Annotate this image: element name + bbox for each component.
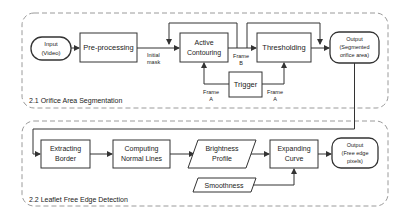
input-video-line1: Input <box>44 41 58 47</box>
output-segmented-line3: orifice area) <box>340 52 369 58</box>
output-free-edge-line1: Output <box>347 142 364 148</box>
computing-normal-lines-line1: Computing <box>125 145 159 153</box>
input-video-line2: (Video) <box>41 50 60 56</box>
frame-a-left-line2: A <box>209 96 213 102</box>
brightness-profile-line1: Brightness <box>205 145 239 153</box>
active-contouring-line2: Contouring <box>187 49 221 57</box>
frame-a-right-line1: Frame <box>267 89 283 95</box>
frame-a-left-line1: Frame <box>203 89 219 95</box>
output-free-edge-line3: pixels) <box>347 158 363 164</box>
output-segmented-line2: (Segmented <box>340 44 370 50</box>
smoothness-label: Smoothness <box>205 182 244 189</box>
extracting-border-line2: Border <box>55 155 77 162</box>
computing-normal-lines-line2: Normal Lines <box>121 155 163 162</box>
active-contouring-node <box>180 33 228 62</box>
frame-a-right-line2: A <box>273 96 277 102</box>
frame-b-line1: Frame <box>233 53 249 59</box>
trigger-label: Trigger <box>234 80 258 89</box>
active-contouring-line1: Active <box>194 39 213 46</box>
initial-mask-line1: Initial <box>147 52 160 58</box>
output-segmented-line1: Output <box>346 36 363 42</box>
output-free-edge-line2: (Free edge <box>342 150 369 156</box>
section-leaflet-label: 2.2 Leaflet Free Edge Detection <box>29 196 128 204</box>
frame-b-line2: B <box>239 60 243 66</box>
flow-diagram: 2.1 Orifice Area Segmentation 2.2 Leafle… <box>0 0 410 218</box>
initial-mask-line2: mask <box>147 59 160 65</box>
preprocessing-label: Pre-processing <box>83 43 133 52</box>
extracting-border-line1: Extracting <box>50 145 81 153</box>
thresholding-label: Thresholding <box>262 43 305 52</box>
expanding-curve-line2: Curve <box>285 155 304 162</box>
expanding-curve-line1: Expanding <box>277 145 310 153</box>
section-orifice-label: 2.1 Orifice Area Segmentation <box>29 97 122 105</box>
brightness-profile-line2: Profile <box>212 155 232 162</box>
